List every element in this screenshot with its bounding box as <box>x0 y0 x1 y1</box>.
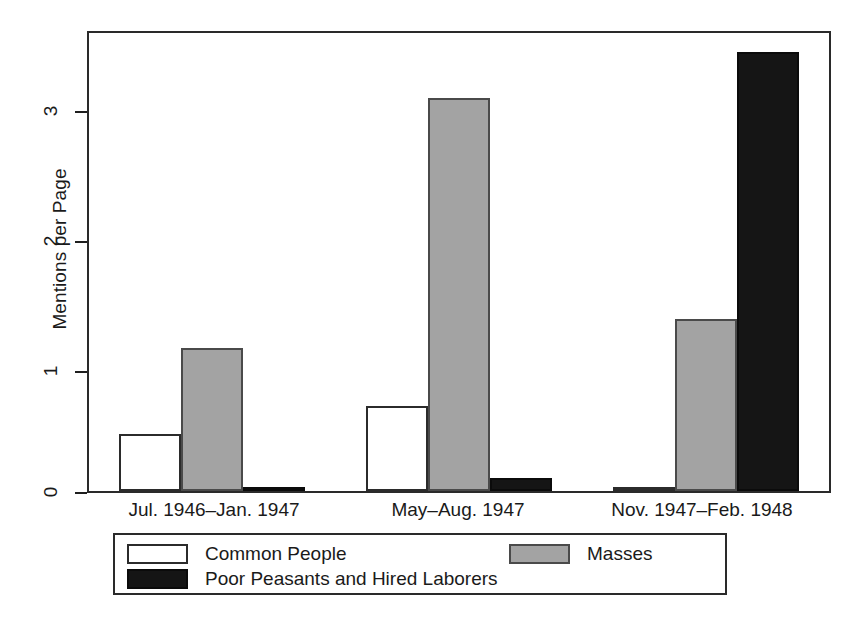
x-tick-label-period-1: Jul. 1946–Jan. 1947 <box>128 499 299 521</box>
y-tick-label-1: 1 <box>40 360 62 382</box>
plot-area <box>87 31 831 493</box>
y-tick-3: 3 <box>36 100 62 124</box>
legend-label-poor-peasants: Poor Peasants and Hired Laborers <box>205 568 498 590</box>
x-tick-label-period-3: Nov. 1947–Feb. 1948 <box>611 499 792 521</box>
y-tick-label-3: 3 <box>40 100 62 122</box>
y-tick-mark-2 <box>75 241 87 243</box>
legend-swatch-black-icon <box>127 569 188 589</box>
bar-common-people-period-1 <box>119 434 181 491</box>
x-tick-label-period-2: May–Aug. 1947 <box>391 499 524 521</box>
bars-layer <box>89 33 829 491</box>
y-tick-1: 1 <box>36 360 62 384</box>
legend-item-common-people: Common People <box>127 543 347 565</box>
bar-poor-peasants-period-1 <box>243 487 305 491</box>
legend-label-common-people: Common People <box>205 543 347 565</box>
legend-swatch-gray-icon <box>509 544 570 564</box>
bar-masses-period-3 <box>675 319 737 491</box>
legend-label-masses: Masses <box>587 543 652 565</box>
y-tick-2: 2 <box>36 230 62 254</box>
bar-common-people-period-3 <box>613 487 675 491</box>
legend-swatch-white-icon <box>127 544 188 564</box>
bar-common-people-period-2 <box>366 406 428 491</box>
bar-poor-peasants-period-3 <box>737 52 799 491</box>
bar-chart-figure: Mentions per Page 3 2 1 0 Jul. 1946–Jan.… <box>0 0 849 629</box>
bar-masses-period-2 <box>428 98 490 491</box>
y-tick-mark-1 <box>75 371 87 373</box>
y-tick-mark-0 <box>75 492 87 494</box>
y-tick-label-0: 0 <box>40 481 62 503</box>
bar-poor-peasants-period-2 <box>490 478 552 491</box>
bar-masses-period-1 <box>181 348 243 491</box>
legend-item-poor-peasants: Poor Peasants and Hired Laborers <box>127 568 498 590</box>
y-tick-0: 0 <box>36 481 62 505</box>
legend: Common People Poor Peasants and Hired La… <box>113 533 727 595</box>
y-tick-label-2: 2 <box>40 230 62 252</box>
legend-item-masses: Masses <box>509 543 652 565</box>
y-tick-mark-3 <box>75 111 87 113</box>
